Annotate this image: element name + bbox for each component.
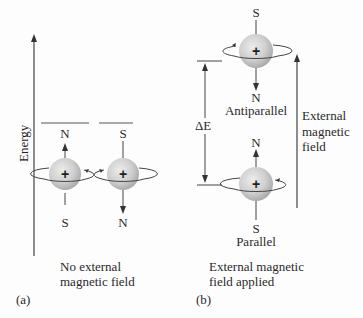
energy-axis-label: Energy [16, 125, 32, 162]
nucleus-plus-sign: + [119, 166, 127, 182]
nmr-spin-diagram: + + + + Energy N S S N No external magne… [0, 0, 363, 318]
nucleus-plus-sign: + [252, 43, 260, 59]
pole-label-s: S [252, 6, 259, 20]
panel-tag-b: (b) [196, 293, 211, 307]
nucleus-plus-sign: + [252, 176, 260, 192]
caption-b: External magnetic field applied [209, 260, 304, 289]
nucleus-plus-sign: + [61, 166, 69, 182]
external-field-label: External magnetic field [302, 108, 350, 155]
parallel-label: Parallel [236, 235, 276, 249]
pole-label-n: N [251, 136, 260, 150]
pole-label-s: S [119, 127, 126, 141]
caption-a: No external magnetic field [60, 260, 135, 289]
delta-e-label: ΔE [195, 119, 211, 133]
pole-label-n: N [118, 216, 127, 230]
diagram-graphics: + + + + [0, 0, 363, 318]
pole-label-n: N [60, 127, 69, 141]
panel-tag-a: (a) [16, 293, 30, 307]
antiparallel-label: Antiparallel [225, 104, 287, 118]
pole-label-s: S [61, 216, 68, 230]
